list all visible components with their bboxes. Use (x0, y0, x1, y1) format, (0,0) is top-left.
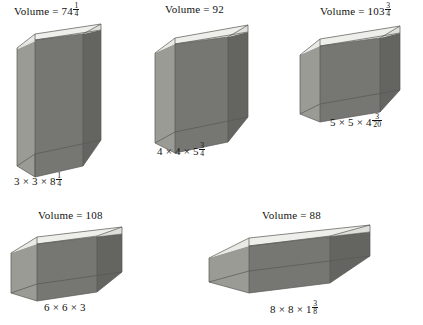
box-illustration-2 (145, 22, 280, 157)
volume-whole-box-3: 103 (368, 5, 385, 17)
dimensions-label-box-5: 8 × 8 × 138 (270, 301, 318, 318)
volume-whole-box-5: 88 (310, 209, 321, 221)
dimensions-text-box-5: 8 × 8 × 1 (270, 303, 312, 315)
volume-whole-box-4: 108 (86, 209, 103, 221)
figure-box-4: Volume = 108 6 × 6 × 3 (0, 205, 190, 325)
dimensions-label-box-4: 6 × 6 × 3 (44, 301, 86, 313)
volume-text-box-2: Volume = (165, 3, 213, 15)
box-illustration-4 (5, 225, 145, 305)
volume-text-box-4: Volume = (38, 209, 86, 221)
dimensions-text-box-1: 3 × 3 × 8 (14, 175, 56, 187)
figure-box-3: Volume = 10334 5 × 5 × 4320 (290, 0, 423, 145)
volume-fraction-box-1: 14 (73, 2, 79, 19)
dimensions-fraction-box-5: 38 (312, 300, 318, 317)
dimensions-fraction-box-1: 14 (56, 172, 62, 189)
dimensions-fraction-box-2: 34 (199, 142, 205, 159)
figure-box-5: Volume = 88 8 × 8 × 138 (195, 205, 423, 325)
dimensions-text-box-2: 4 × 4 × 5 (157, 145, 199, 157)
worksheet-canvas: Volume = 7414 (0, 0, 423, 325)
dimensions-text-box-3: 5 × 5 × 4 (330, 116, 372, 128)
dimensions-text-box-4: 6 × 6 × 3 (44, 301, 86, 313)
volume-label-box-3: Volume = 10334 (320, 3, 391, 20)
volume-fraction-box-3: 34 (385, 2, 391, 19)
volume-label-box-5: Volume = 88 (262, 209, 321, 221)
box-illustration-1 (5, 22, 130, 172)
dimensions-label-box-2: 4 × 4 × 534 (157, 143, 205, 160)
volume-text-box-1: Volume = (14, 5, 62, 17)
volume-whole-box-2: 92 (213, 3, 224, 15)
volume-text-box-3: Volume = (320, 5, 368, 17)
volume-label-box-1: Volume = 7414 (14, 3, 79, 20)
volume-label-box-2: Volume = 92 (165, 3, 224, 15)
figure-box-2: Volume = 92 4 × 4 × 534 (140, 0, 285, 175)
dimensions-label-box-1: 3 × 3 × 814 (14, 173, 62, 190)
volume-whole-box-1: 74 (62, 5, 73, 17)
box-illustration-5 (203, 224, 408, 304)
figure-box-1: Volume = 7414 (0, 0, 140, 200)
volume-text-box-5: Volume = (262, 209, 310, 221)
dimensions-fraction-box-3: 320 (372, 113, 382, 130)
dimensions-label-box-3: 5 × 5 × 4320 (330, 114, 382, 131)
volume-label-box-4: Volume = 108 (38, 209, 103, 221)
